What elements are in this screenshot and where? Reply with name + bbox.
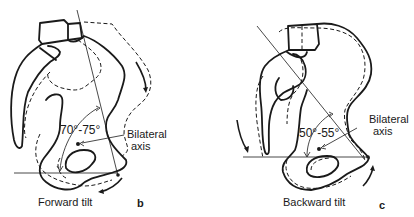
obturator-foramen (66, 150, 96, 172)
angle-label: 70°-75° (60, 124, 100, 136)
bilateral-axis-label: Bilateral (127, 128, 167, 140)
panel-caption: Backward tilt (283, 196, 345, 208)
panel-letter: c (379, 199, 385, 211)
vertebra-block (39, 20, 68, 44)
panel-letter: b (137, 197, 144, 209)
bilateral-axis-point (317, 147, 321, 151)
vertical-axis-line (77, 10, 118, 176)
pelvis-forward-tilt-drawing (0, 0, 207, 217)
panel-forward-tilt: 70°-75° Bilateral axis Forward tilt b (0, 0, 207, 217)
bilateral-axis-label-line2: axis (131, 140, 151, 152)
bilateral-axis-point (76, 142, 80, 146)
panel-caption: Forward tilt (38, 196, 92, 208)
panel-backward-tilt: 50°-55° Bilateral axis Backward tilt c (207, 0, 414, 217)
bilateral-axis-label: Bilateral (369, 113, 409, 125)
pelvis-backward-tilt-drawing (207, 0, 414, 217)
angle-label: 50°-55° (299, 127, 339, 139)
bilateral-axis-label-line2: axis (373, 125, 393, 137)
